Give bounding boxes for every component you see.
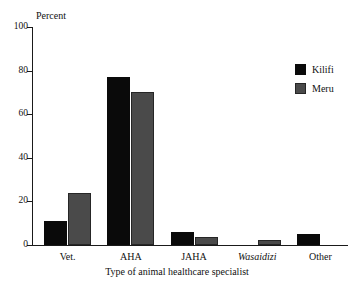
bar-group <box>297 27 344 245</box>
y-tick-label: 60 <box>19 108 29 119</box>
legend: KilifiMeru <box>295 63 334 101</box>
bar-kilifi-aha[interactable] <box>107 77 130 245</box>
legend-item-meru[interactable]: Meru <box>295 82 334 94</box>
y-tick-label: 0 <box>23 239 28 250</box>
y-tick-label: 80 <box>19 65 29 76</box>
legend-label: Meru <box>312 83 334 94</box>
y-tick-label: 40 <box>19 152 29 163</box>
y-tick-label: 20 <box>19 195 29 206</box>
bar-meru-wasaidizi[interactable] <box>258 240 281 245</box>
legend-swatch-meru <box>295 83 306 94</box>
bar-group <box>171 27 218 245</box>
y-axis-line <box>32 27 33 246</box>
x-tick-label: Other <box>280 251 354 263</box>
bar-kilifi-jaha[interactable] <box>171 232 194 245</box>
y-tick-label: 100 <box>14 21 28 32</box>
x-axis-title: Type of animal healthcare specialist <box>0 266 354 278</box>
bar-kilifi-other[interactable] <box>297 234 320 245</box>
legend-item-kilifi[interactable]: Kilifi <box>295 63 334 75</box>
bar-kilifi-vet[interactable] <box>44 221 67 245</box>
plot-area: 100806040200 Vet.AHAJAHAWasaidiziOther <box>32 27 348 245</box>
legend-swatch-kilifi <box>295 64 306 75</box>
bar-chart-figure: Percent 100806040200 Vet.AHAJAHAWasaidiz… <box>0 0 354 284</box>
bar-group <box>107 27 154 245</box>
bar-meru-jaha[interactable] <box>195 237 218 245</box>
bar-meru-vet[interactable] <box>68 193 91 245</box>
y-axis-title: Percent <box>36 10 66 21</box>
bar-group <box>44 27 91 245</box>
x-axis-line <box>32 245 348 246</box>
bar-meru-aha[interactable] <box>131 92 154 245</box>
bar-group <box>234 27 281 245</box>
legend-label: Kilifi <box>312 64 334 75</box>
